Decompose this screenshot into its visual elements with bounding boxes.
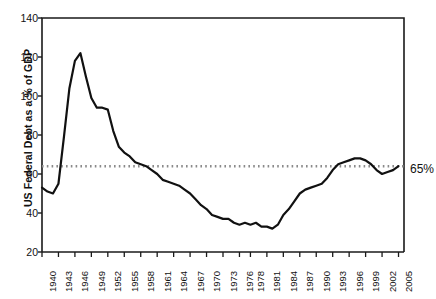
x-tick-label: 1984: [288, 271, 299, 292]
x-tick-label: 2002: [387, 271, 398, 292]
x-tick-label: 1996: [354, 271, 365, 292]
x-tick-label: 1940: [47, 271, 58, 292]
x-tick-label: 1961: [162, 271, 173, 292]
x-tick-label: 1978: [255, 271, 266, 292]
chart-plot-area: [0, 0, 436, 299]
x-tick-label: 1955: [129, 271, 140, 292]
x-tick-label: 1981: [271, 271, 282, 292]
x-tick-label: 1958: [145, 271, 156, 292]
x-tick-label: 1973: [228, 271, 239, 292]
y-axis-title: US Federal Debt as a % of GDP: [22, 28, 34, 228]
x-tick-label: 1993: [337, 271, 348, 292]
x-tick-label: 1952: [112, 271, 123, 292]
x-tick-label: 1964: [178, 271, 189, 292]
x-tick-label: 1949: [96, 271, 107, 292]
x-tick-label: 1946: [79, 271, 90, 292]
x-tick-label: 1976: [244, 271, 255, 292]
x-tick-label: 1990: [321, 271, 332, 292]
x-tick-label: 1943: [63, 271, 74, 292]
y-tick-label: 20: [26, 246, 38, 258]
x-tick-label: 2005: [403, 271, 414, 292]
x-tick-label: 1967: [195, 271, 206, 292]
chart-container: 140 120 100 80 60 40 20 US Federal Debt …: [0, 0, 436, 299]
x-tick-label: 1999: [370, 271, 381, 292]
x-tick-label: 1970: [211, 271, 222, 292]
axis-ticks: [38, 18, 399, 257]
plot-frame: [42, 18, 404, 252]
y-tick-label: 140: [20, 12, 38, 24]
reference-line-label: 65%: [410, 162, 434, 176]
data-series-line: [42, 53, 399, 229]
x-tick-label: 1987: [304, 271, 315, 292]
